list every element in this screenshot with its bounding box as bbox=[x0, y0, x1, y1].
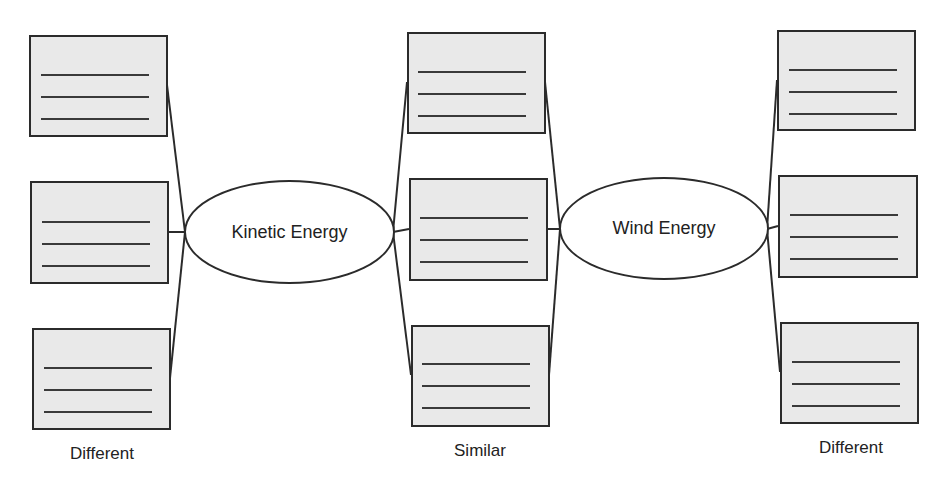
left-box-2[interactable] bbox=[30, 181, 169, 284]
writing-line bbox=[790, 236, 898, 238]
writing-line bbox=[41, 74, 149, 76]
writing-line bbox=[44, 389, 152, 391]
left-box-3[interactable] bbox=[32, 328, 171, 430]
writing-line bbox=[790, 214, 898, 216]
writing-line bbox=[44, 411, 152, 413]
writing-line bbox=[41, 96, 149, 98]
middle-box-3[interactable] bbox=[411, 325, 550, 427]
writing-line bbox=[792, 405, 900, 407]
kinetic-energy-label: Kinetic Energy bbox=[231, 222, 347, 243]
middle-box-1[interactable] bbox=[407, 32, 546, 134]
writing-line bbox=[418, 93, 526, 95]
wind-energy-node[interactable]: Wind Energy bbox=[559, 177, 769, 280]
right-box-2[interactable] bbox=[778, 175, 918, 278]
middle-box-2[interactable] bbox=[409, 178, 548, 281]
writing-line bbox=[422, 385, 530, 387]
writing-line bbox=[420, 261, 528, 263]
writing-line bbox=[790, 258, 898, 260]
writing-line bbox=[792, 361, 900, 363]
writing-line bbox=[420, 239, 528, 241]
writing-line bbox=[789, 69, 897, 71]
wind-energy-label: Wind Energy bbox=[612, 218, 715, 239]
writing-line bbox=[41, 118, 149, 120]
left-box-1[interactable] bbox=[29, 35, 168, 137]
right-column-label: Different bbox=[771, 438, 931, 458]
writing-line bbox=[42, 221, 150, 223]
right-box-3[interactable] bbox=[780, 322, 919, 424]
writing-line bbox=[42, 265, 150, 267]
writing-line bbox=[418, 115, 526, 117]
middle-column-label: Similar bbox=[400, 441, 560, 461]
writing-line bbox=[792, 383, 900, 385]
writing-line bbox=[418, 71, 526, 73]
left-column-label: Different bbox=[22, 444, 182, 464]
writing-line bbox=[44, 367, 152, 369]
kinetic-energy-node[interactable]: Kinetic Energy bbox=[184, 180, 395, 284]
writing-line bbox=[422, 363, 530, 365]
writing-line bbox=[422, 407, 530, 409]
writing-line bbox=[789, 113, 897, 115]
writing-line bbox=[42, 243, 150, 245]
writing-line bbox=[420, 217, 528, 219]
writing-line bbox=[789, 91, 897, 93]
right-box-1[interactable] bbox=[777, 30, 916, 131]
